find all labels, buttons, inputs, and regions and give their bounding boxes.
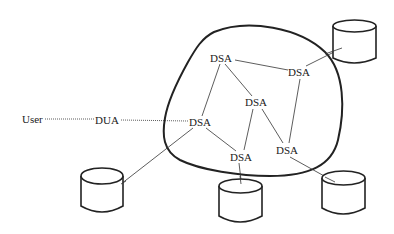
database-icon	[81, 168, 123, 212]
edge-dsa4-dsa5	[206, 128, 236, 151]
edge-dsa4-db-bottom-left	[121, 128, 193, 184]
dua-label: DUA	[95, 114, 119, 126]
edge-dsa2-dsa6	[289, 79, 300, 143]
database-icon	[219, 179, 262, 222]
diagram-svg: User DUA DSA DSA DSA DSA DSA DSA	[0, 0, 394, 234]
dsa-label-4: DSA	[189, 116, 211, 128]
database-icon	[322, 171, 365, 214]
database-icon	[333, 20, 376, 63]
dsa-label-5: DSA	[230, 151, 252, 163]
edge-dsa1-dsa4	[202, 64, 220, 116]
dsa-label-3: DSA	[245, 96, 267, 108]
edge-dsa3-dsa5	[244, 109, 253, 150]
dsa-label-1: DSA	[210, 52, 232, 64]
edge-dsa3-dsa6	[262, 109, 283, 143]
edge-dsa1-dsa3	[225, 64, 252, 96]
directory-diagram: User DUA DSA DSA DSA DSA DSA DSA	[0, 0, 394, 234]
user-label: User	[22, 113, 43, 125]
edge-dua-dsa4	[121, 120, 188, 121]
edge-dsa1-dsa2	[235, 60, 288, 70]
dsa-label-2: DSA	[288, 66, 310, 78]
dsa-label-6: DSA	[276, 144, 298, 156]
